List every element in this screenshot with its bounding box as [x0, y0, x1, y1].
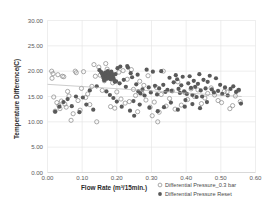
data-point [192, 79, 196, 83]
data-point [175, 77, 179, 81]
data-point [169, 100, 173, 104]
data-point [181, 75, 185, 79]
data-point [151, 70, 155, 74]
data-point [147, 106, 151, 110]
y-tick-label: 5.00 [31, 143, 43, 150]
data-point [157, 86, 161, 90]
data-point [118, 65, 122, 69]
data-point [172, 80, 176, 84]
data-point [165, 88, 169, 92]
data-point [131, 99, 135, 103]
data-point [183, 105, 187, 109]
data-point [183, 98, 187, 102]
x-tick-label: 0.50 [215, 174, 227, 181]
data-point [190, 102, 194, 106]
y-tick-label: 15.00 [28, 93, 44, 100]
data-point [130, 75, 134, 79]
data-point [125, 64, 129, 68]
data-point [208, 74, 212, 78]
data-point [159, 69, 163, 73]
data-point [153, 84, 157, 88]
data-point [214, 76, 218, 80]
data-point [142, 93, 146, 97]
data-point [88, 88, 92, 92]
data-point [77, 110, 81, 114]
data-point [176, 108, 180, 112]
x-axis-title: Flow Rate (m³/15min.) [81, 184, 147, 192]
data-point [113, 72, 117, 76]
data-point [128, 109, 132, 113]
data-point [205, 100, 209, 104]
data-point [155, 92, 159, 96]
data-point [196, 82, 200, 86]
data-point [179, 83, 183, 87]
data-point [104, 89, 108, 93]
data-point [147, 85, 151, 89]
data-point [124, 85, 128, 89]
data-point [239, 101, 243, 105]
y-tick-label: 25.00 [28, 42, 44, 49]
scatter-chart: 0.000.100.200.300.400.500.60 0.005.0010.… [0, 0, 269, 207]
data-point [201, 78, 205, 82]
data-point [108, 93, 112, 97]
x-tick-label: 0.00 [42, 174, 54, 181]
data-point [111, 96, 115, 100]
data-point [138, 103, 142, 107]
chart-canvas: 0.000.100.200.300.400.500.60 0.005.0010.… [0, 0, 269, 207]
data-point [84, 103, 88, 107]
data-point [212, 90, 216, 94]
data-point [216, 89, 220, 93]
legend-label: Differential Pressure Reset [165, 191, 232, 197]
y-tick-label: 20.00 [28, 67, 44, 74]
x-tick-label: 0.40 [180, 174, 192, 181]
data-point [188, 74, 192, 78]
data-point [74, 94, 78, 98]
data-point [237, 88, 241, 92]
legend-label: Differential Pressure_0.3 bar [165, 182, 236, 188]
data-point [199, 88, 203, 92]
chart-background [0, 0, 269, 207]
data-point [122, 78, 126, 82]
y-tick-label: 30.00 [28, 17, 44, 24]
data-point [174, 73, 178, 77]
data-point [198, 106, 202, 110]
y-tick-label: 0.00 [31, 169, 43, 176]
data-point [218, 83, 222, 87]
x-tick-label: 0.60 [250, 174, 262, 181]
x-tick-label: 0.30 [146, 174, 158, 181]
data-point [162, 105, 166, 109]
data-point [197, 72, 201, 76]
data-point [81, 95, 85, 99]
data-point [118, 81, 122, 85]
y-tick-label: 10.00 [28, 118, 44, 125]
data-point [91, 108, 95, 112]
data-point [167, 76, 171, 80]
x-tick-label: 0.10 [76, 174, 88, 181]
data-point [120, 105, 124, 109]
data-point [161, 83, 165, 87]
data-point [138, 91, 142, 95]
data-point [70, 104, 74, 108]
data-point [189, 86, 193, 90]
data-point [186, 81, 190, 85]
data-point [194, 95, 198, 99]
data-point [200, 94, 204, 98]
data-point [223, 85, 227, 89]
legend-marker-filled-circle [158, 192, 162, 196]
data-point [53, 110, 57, 114]
data-point [140, 87, 144, 91]
data-point [136, 73, 140, 77]
data-point [145, 68, 149, 72]
data-point [115, 99, 119, 103]
data-point [57, 105, 61, 109]
x-tick-label: 0.20 [111, 174, 123, 181]
data-point [203, 86, 207, 90]
data-point [132, 114, 136, 118]
data-point [129, 71, 133, 75]
data-point [156, 109, 160, 113]
data-point [176, 87, 180, 91]
data-point [134, 82, 138, 86]
data-point [61, 100, 65, 104]
data-point [206, 80, 210, 84]
data-point [66, 97, 70, 101]
